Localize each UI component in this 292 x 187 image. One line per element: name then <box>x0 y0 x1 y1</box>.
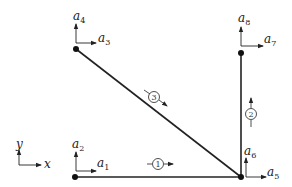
dof-arrows-bottom-left: a2 a1 <box>72 137 109 172</box>
dof-label-a7: a7 <box>264 32 276 48</box>
node-top-left <box>73 46 79 52</box>
element-label-1: 1 <box>147 159 173 170</box>
dof-label-a1: a1 <box>97 156 109 172</box>
dof-label-a5: a5 <box>267 165 279 181</box>
global-axes: y x <box>15 137 51 171</box>
element-label-2: 2 <box>246 98 257 127</box>
x-axis-label: x <box>44 157 51 171</box>
dof-label-a4: a4 <box>73 9 85 25</box>
y-axis-label: y <box>15 137 23 151</box>
dof-arrows-top-right: a8 a7 <box>238 11 276 48</box>
element-number-1: 1 <box>155 160 160 169</box>
node-bottom-left <box>72 174 78 180</box>
dof-label-a8: a8 <box>238 11 250 27</box>
node-bottom-right <box>238 174 244 180</box>
element-number-2: 2 <box>248 110 253 119</box>
dof-label-a6: a6 <box>244 144 256 160</box>
dof-arrows-bottom-right: a6 a5 <box>244 144 279 181</box>
dof-arrows-top-left: a4 a3 <box>73 9 110 47</box>
truss-diagram: a4 a3 a8 a7 a2 a1 a6 a5 1 2 3 <box>0 0 292 187</box>
dof-label-a3: a3 <box>98 31 110 47</box>
dof-label-a2: a2 <box>72 137 84 153</box>
element-number-3: 3 <box>151 93 156 102</box>
node-top-right <box>238 50 244 56</box>
